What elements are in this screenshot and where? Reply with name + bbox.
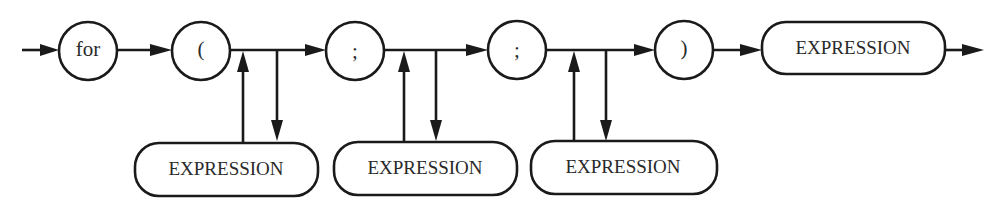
nonterminal-condition-expression: EXPRESSION — [334, 142, 517, 195]
arrow-up-icon — [237, 51, 249, 72]
arrow-up-icon — [398, 51, 410, 72]
arrow-right-icon — [466, 44, 488, 56]
terminal-label: ; — [352, 39, 358, 63]
terminal-label: ( — [198, 37, 205, 61]
nonterminal-increment-expression: EXPRESSION — [531, 141, 717, 194]
terminal-semicolon-1: ; — [326, 22, 384, 80]
arrow-right-icon — [740, 44, 762, 56]
terminal-label: for — [76, 37, 101, 61]
terminal-right-paren: ) — [655, 21, 713, 79]
nonterminal-label: EXPRESSION — [168, 158, 283, 179]
for-statement-syntax-diagram: for ( ; ; ) EXPRESSION EXPRESSION EXPRES… — [0, 0, 1000, 214]
arrow-right-icon — [150, 44, 172, 56]
terminal-for: for — [59, 22, 117, 80]
nonterminal-label: EXPRESSION — [565, 156, 680, 177]
terminal-left-paren: ( — [172, 22, 230, 80]
nonterminal-label: EXPRESSION — [795, 37, 910, 58]
nonterminal-body-expression: EXPRESSION — [762, 22, 945, 74]
nonterminal-label: EXPRESSION — [367, 157, 482, 178]
terminal-label: ; — [514, 38, 520, 62]
arrow-up-icon — [568, 51, 580, 72]
arrow-right-icon — [305, 44, 326, 56]
terminal-label: ) — [681, 36, 688, 60]
nonterminal-init-expression: EXPRESSION — [135, 143, 318, 196]
entry-arrow-icon — [40, 44, 59, 56]
arrow-down-icon — [600, 120, 612, 141]
terminal-semicolon-2: ; — [488, 21, 546, 79]
arrow-right-icon — [634, 44, 655, 56]
exit-arrow-icon — [962, 44, 984, 56]
arrow-down-icon — [271, 120, 283, 141]
arrow-down-icon — [430, 120, 442, 141]
